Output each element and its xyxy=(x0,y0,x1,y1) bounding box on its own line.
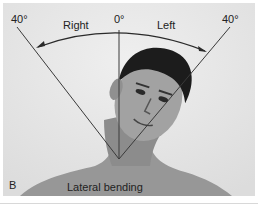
panel-label: B xyxy=(9,180,16,191)
figure-caption: Lateral bending xyxy=(67,182,143,193)
angle-label-center: 0° xyxy=(114,14,125,25)
divider xyxy=(0,203,258,204)
angle-label-right-max: 40° xyxy=(11,14,28,25)
angle-label-left-max: 40° xyxy=(222,14,239,25)
direction-label-right: Right xyxy=(63,20,89,31)
lateral-bending-figure xyxy=(3,3,255,196)
photo-illustration xyxy=(3,3,255,196)
direction-label-left: Left xyxy=(157,20,175,31)
